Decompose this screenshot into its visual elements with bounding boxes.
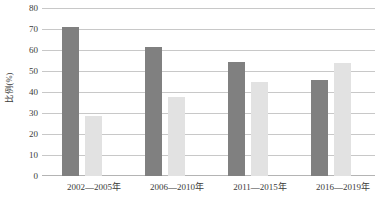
x-tick-label-1: 2006—2010年 [150, 182, 204, 192]
y-tick-label-40: 40 [8, 88, 38, 97]
bar-group-1-series-1 [168, 97, 185, 176]
y-tick-label-70: 70 [8, 25, 38, 34]
bar-group-1-series-0 [145, 47, 162, 176]
y-tick-label-20: 20 [8, 130, 38, 139]
x-tick-label-3: 2016—2019年 [316, 182, 370, 192]
bar-chart: 比例(%) 80 70 60 50 40 30 20 10 0 2002—200… [0, 0, 385, 212]
y-tick-label-50: 50 [8, 67, 38, 76]
y-tick-label-80: 80 [8, 4, 38, 13]
y-tick-label-10: 10 [8, 151, 38, 160]
bar-group-3-series-1 [334, 63, 351, 176]
y-tick-label-30: 30 [8, 109, 38, 118]
bar-group-0-series-1 [85, 116, 102, 176]
y-tick-label-60: 60 [8, 46, 38, 55]
gridline-50 [42, 71, 375, 72]
bar-group-2-series-1 [251, 82, 268, 176]
y-tick-label-0: 0 [8, 172, 38, 181]
bar-group-0-series-0 [62, 27, 79, 176]
x-tick-label-0: 2002—2005年 [67, 182, 121, 192]
plot-area [42, 8, 375, 176]
bar-group-3-series-0 [311, 80, 328, 176]
bar-group-2-series-0 [228, 62, 245, 176]
x-tick-label-2: 2011—2015年 [233, 182, 287, 192]
gridline-70 [42, 29, 375, 30]
gridline-80 [42, 8, 375, 9]
gridline-60 [42, 50, 375, 51]
